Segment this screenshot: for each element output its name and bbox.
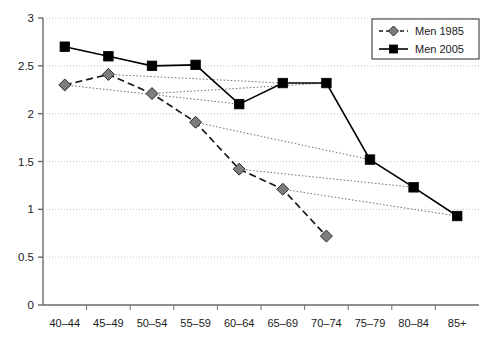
y-axis-tick-label: 2.5 (18, 60, 34, 72)
x-axis-tick-label: 55–59 (180, 317, 211, 329)
y-axis-tick-label: 1 (28, 203, 34, 215)
y-axis-tick-label: 2 (28, 108, 34, 120)
legend-sample-marker-1 (390, 45, 398, 53)
x-axis-tick-label: 70–74 (311, 317, 342, 329)
x-axis-ticks: 40–4445–4950–5455–5960–6465–6970–7475–79… (50, 305, 467, 329)
y-axis-ticks: 00.511.522.53 (18, 12, 43, 311)
cohort-connector-line (108, 74, 282, 83)
y-axis-tick-label: 1.5 (18, 156, 34, 168)
x-axis-tick-label: 40–44 (50, 317, 81, 329)
data-point-men-2005-7 (365, 155, 375, 165)
data-point-men-2005-9 (452, 211, 462, 221)
data-point-men-2005-8 (409, 183, 419, 193)
x-axis-tick-label: 65–69 (268, 317, 299, 329)
cohort-connector-line (239, 169, 413, 187)
data-point-men-2005-6 (322, 78, 332, 88)
x-axis-tick-label: 85+ (448, 317, 467, 329)
line-chart: 00.511.522.53 40–4445–4950–5455–5960–646… (0, 0, 487, 342)
x-axis-tick-label: 45–49 (93, 317, 124, 329)
data-point-men-2005-0 (60, 42, 70, 52)
x-axis-tick-label: 80–84 (398, 317, 429, 329)
y-axis-tick-label: 3 (28, 12, 34, 24)
cohort-connector-lines (65, 74, 457, 216)
data-point-men-1985-2 (146, 88, 158, 100)
y-axis-tick-label: 0.5 (18, 251, 34, 263)
cohort-connector-line (196, 122, 370, 159)
series-line-men-2005 (65, 47, 457, 216)
data-point-men-1985-5 (277, 183, 289, 195)
x-axis-tick-label: 50–54 (137, 317, 168, 329)
legend-item-label-1[interactable]: Men 2005 (415, 43, 464, 55)
cohort-connector-line (283, 189, 457, 216)
legend[interactable]: Men 1985Men 2005 (372, 19, 479, 59)
data-point-men-2005-4 (234, 99, 244, 109)
x-axis-tick-label: 75–79 (355, 317, 386, 329)
x-axis-tick-label: 60–64 (224, 317, 255, 329)
cohort-connector-line (152, 83, 326, 94)
data-point-men-1985-3 (190, 116, 202, 128)
series-markers-group (59, 42, 462, 242)
chart-container: 00.511.522.53 40–4445–4950–5455–5960–646… (0, 0, 487, 342)
data-point-men-2005-1 (104, 52, 114, 62)
legend-item-label-0[interactable]: Men 1985 (415, 25, 464, 37)
data-point-men-2005-2 (147, 61, 157, 70)
data-point-men-1985-1 (102, 68, 114, 80)
data-point-men-1985-0 (59, 79, 71, 91)
y-axis-tick-label: 0 (28, 299, 34, 311)
series-line-men-1985 (65, 74, 327, 236)
data-point-men-2005-3 (191, 60, 201, 69)
data-point-men-2005-5 (278, 78, 288, 88)
